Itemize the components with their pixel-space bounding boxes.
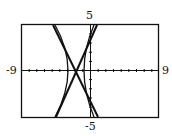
graph-plot: [0, 0, 172, 136]
